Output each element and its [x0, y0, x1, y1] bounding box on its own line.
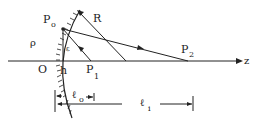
label-li: ℓ: [140, 97, 145, 108]
label-l0-sub: o: [79, 95, 84, 104]
li-left-arrow-icon: [57, 102, 62, 106]
label-p1: P: [86, 63, 94, 76]
label-p0: P: [43, 13, 51, 26]
label-p1-sub: 1: [94, 72, 99, 81]
label-p2-sub: 2: [189, 50, 194, 59]
l0-right-arrow-icon: [88, 95, 93, 99]
incident-ray-arrow-icon: [78, 46, 84, 52]
z-axis-arrow-icon: [236, 58, 243, 64]
label-li-sub: i: [148, 104, 151, 113]
mirror-diagram: P o R ρ ε O h P 1 P 2 z ℓ o ℓ i: [0, 0, 257, 123]
label-h: h: [60, 64, 67, 77]
label-z: z: [244, 55, 249, 66]
label-r: R: [93, 12, 102, 25]
reflected-ray: [63, 29, 188, 61]
radius-line: [79, 12, 126, 61]
label-origin: O: [38, 63, 47, 76]
label-rho: ρ: [30, 37, 36, 48]
label-l0: ℓ: [72, 89, 77, 100]
label-epsilon: ε: [66, 45, 70, 53]
l0-left-arrow-icon: [56, 94, 61, 98]
point-p0: [61, 27, 65, 31]
label-p2: P: [181, 43, 189, 56]
li-right-arrow-icon: [187, 102, 192, 106]
label-p0-sub: o: [51, 20, 56, 29]
